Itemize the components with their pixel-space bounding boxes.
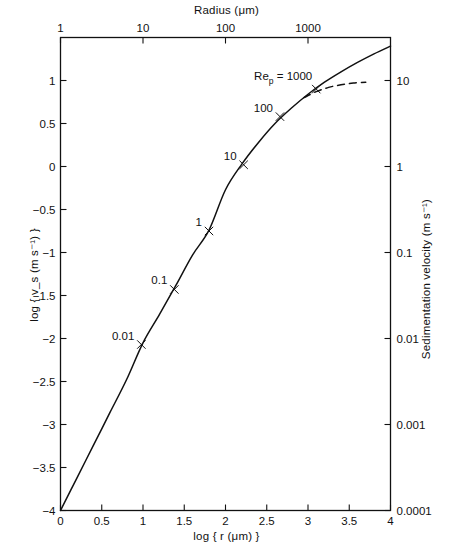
curve-0	[61, 46, 391, 510]
axis-frame	[61, 38, 391, 511]
left-tick-label: −4	[42, 505, 55, 517]
bottom-tick-label: 0.5	[94, 515, 110, 527]
left-tick-label: 0	[49, 161, 55, 173]
reynolds-mark-label: 0.01	[112, 330, 134, 342]
reynolds-mark-label: 10	[224, 150, 237, 162]
bottom-tick-label: 0	[57, 515, 63, 527]
left-tick-label: −3	[42, 419, 55, 431]
left-tick-label: −1	[42, 247, 55, 259]
reynolds-mark	[170, 285, 178, 293]
left-tick-label: −2	[42, 333, 55, 345]
reynolds-tick-marks	[137, 85, 320, 349]
left-tick-label: 0.5	[40, 118, 56, 130]
bottom-axis-title-text: log { r (μm) }	[193, 530, 259, 542]
plot-area	[0, 0, 453, 551]
top-axis-title: Radius (μm)	[0, 4, 453, 16]
right-tick-label: 0.1	[397, 247, 413, 259]
bottom-tick-label: 3.5	[341, 515, 357, 527]
left-tick-label: 1	[49, 75, 55, 87]
bottom-tick-label: 1	[140, 515, 146, 527]
top-tick-label: 100	[216, 22, 235, 34]
reynolds-mark-label: 0.1	[151, 274, 167, 286]
top-tick-label: 1000	[295, 22, 321, 34]
top-axis-title-text: Radius (μm)	[194, 4, 259, 16]
left-tick-label: −2.5	[33, 376, 56, 388]
reynolds-number-annotation: Rep = 1000	[254, 70, 312, 85]
data-curves	[61, 46, 391, 510]
reynolds-mark-label: 1	[196, 216, 202, 228]
left-tick-label: −3.5	[33, 462, 56, 474]
axis-ticks	[61, 38, 391, 511]
bottom-tick-label: 3	[305, 515, 311, 527]
bottom-tick-label: 1.5	[176, 515, 192, 527]
right-tick-label: 0.001	[397, 419, 426, 431]
bottom-tick-label: 2.5	[259, 515, 275, 527]
sedimentation-velocity-chart: Radius (μm) log { r (μm) } log { v_s (m …	[0, 0, 453, 551]
right-axis-title: Sedimentation velocity (m s⁻¹)	[419, 159, 433, 399]
right-tick-label: 1	[397, 161, 403, 173]
left-tick-label: −0.5	[33, 204, 56, 216]
top-tick-label: 10	[137, 22, 150, 34]
bottom-tick-label: 4	[387, 515, 393, 527]
left-axis-title: log { v_s (m s⁻¹) }	[27, 155, 41, 395]
top-tick-label: 1	[57, 22, 63, 34]
reynolds-mark	[205, 227, 213, 235]
right-axis-title-text: Sedimentation velocity (m s⁻¹)	[420, 199, 432, 359]
left-axis-title-text: log { v_s (m s⁻¹) }	[28, 228, 40, 322]
bottom-tick-label: 2	[222, 515, 228, 527]
right-tick-label: 0.0001	[397, 505, 432, 517]
right-tick-label: 10	[397, 75, 410, 87]
right-tick-label: 0.01	[397, 333, 419, 345]
bottom-axis-title: log { r (μm) }	[0, 530, 453, 542]
left-tick-label: −1.5	[33, 290, 56, 302]
reynolds-mark-label: 100	[254, 102, 273, 114]
